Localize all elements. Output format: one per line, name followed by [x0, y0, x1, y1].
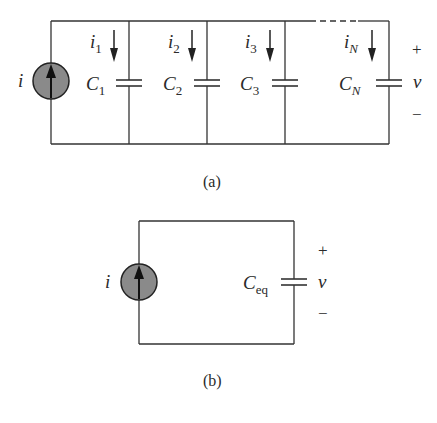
capacitors-parallel-diagram: i i1 C1 i2 C2 — [0, 0, 437, 423]
capacitor-branch-n — [376, 21, 402, 144]
source-label: i — [105, 271, 110, 292]
capacitor-eq-label: Ceq — [243, 272, 268, 297]
capacitor-label-3: C3 — [240, 73, 259, 98]
current-label-2: i2 — [168, 31, 180, 56]
current-arrow-icon — [188, 30, 196, 62]
capacitor-branch-2 — [194, 21, 220, 144]
current-source-icon — [33, 63, 69, 99]
current-arrow-icon — [266, 30, 274, 62]
capacitor-branch-3 — [272, 21, 298, 144]
voltage-label: v — [413, 71, 422, 92]
capacitor-eq — [281, 221, 307, 344]
capacitor-label-2: C2 — [163, 73, 182, 98]
voltage-minus: − — [412, 105, 422, 124]
source-label: i — [18, 70, 23, 91]
voltage-plus: + — [412, 40, 422, 59]
current-source-icon — [121, 264, 157, 300]
current-label-1: i1 — [90, 31, 102, 56]
voltage-minus: − — [318, 304, 328, 323]
circuit-b: i Ceq + v − (b) — [105, 221, 328, 390]
current-label-3: i3 — [245, 31, 257, 56]
current-arrow-icon — [110, 30, 118, 62]
capacitor-branch-1 — [116, 21, 142, 144]
capacitor-label-1: C1 — [86, 73, 105, 98]
capacitor-label-n: CN — [339, 73, 362, 98]
caption-b: (b) — [203, 372, 222, 390]
current-arrow-icon — [368, 30, 376, 62]
circuit-a: i i1 C1 i2 C2 — [18, 21, 422, 191]
caption-a: (a) — [203, 173, 221, 191]
voltage-label: v — [318, 271, 327, 292]
current-label-n: iN — [344, 31, 359, 56]
voltage-plus: + — [318, 241, 328, 260]
